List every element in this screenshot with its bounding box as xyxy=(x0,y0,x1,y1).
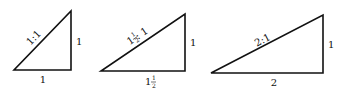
triangle-2-ratio-label: 1 1 2 : 1 xyxy=(124,23,151,47)
triangle-2-base-label: 1 1 2 xyxy=(145,74,156,89)
triangle-1-shape xyxy=(14,11,71,70)
triangle-2-shape xyxy=(101,14,185,71)
triangle-1-5-to-1: 1 1 2 : 1 1 1 1 2 xyxy=(101,14,196,89)
triangle-1-height-label: 1 xyxy=(76,36,82,47)
triangle-2-height-label: 1 xyxy=(190,37,196,48)
triangle-1-1: 1:1 1 1 xyxy=(14,11,82,85)
triangle-1-ratio-label: 1:1 xyxy=(24,28,43,47)
triangle-3-height-label: 1 xyxy=(328,39,334,50)
triangle-1-base-label: 1 xyxy=(40,74,46,85)
triangle-3-base-label: 2 xyxy=(271,77,277,88)
triangle-3-ratio-label: 2:1 xyxy=(253,31,272,48)
base-frac-den: 2 xyxy=(152,82,156,89)
base-frac-num: 1 xyxy=(152,74,156,81)
base-whole: 1 xyxy=(145,76,151,87)
slope-triangles-diagram: 1:1 1 1 1 1 2 : 1 1 1 1 2 2:1 1 2 xyxy=(0,0,346,92)
triangle-2-to-1: 2:1 1 2 xyxy=(211,15,334,88)
triangle-3-shape xyxy=(211,15,323,73)
